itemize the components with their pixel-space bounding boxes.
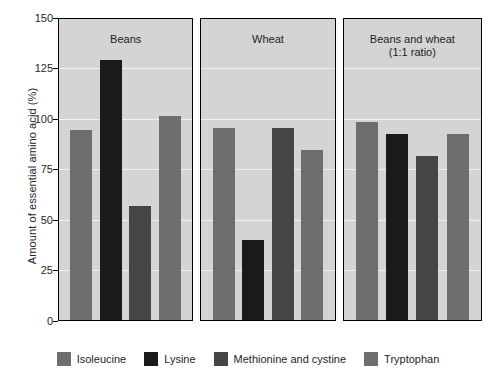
bar [416,156,438,320]
legend-label: Isoleucine [77,353,127,365]
legend-swatch [144,352,158,366]
chart-root: Amount of essential amino acid (%) 02550… [0,0,496,392]
bar [301,150,323,320]
bar [159,116,181,320]
chart-legend: IsoleucineLysineMethionine and cystineTr… [0,352,496,366]
legend-swatch [364,352,378,366]
bar [129,206,151,320]
legend-item: Isoleucine [57,352,127,366]
legend-swatch [214,352,228,366]
bar-group [201,19,334,320]
bar [447,134,469,320]
bar-group [344,19,481,320]
panel-group: BeansWheatBeans and wheat (1:1 ratio) [58,18,482,321]
bar-group [59,19,192,320]
legend-item: Tryptophan [364,352,439,366]
legend-label: Tryptophan [384,353,439,365]
legend-swatch [57,352,71,366]
panel-title: Beans and wheat (1:1 ratio) [344,33,481,59]
bar [272,128,294,320]
bar [356,122,378,320]
bar [386,134,408,320]
bar [213,128,235,320]
chart-panel: Wheat [200,18,335,321]
chart-panel: Beans and wheat (1:1 ratio) [343,18,482,321]
y-axis: 0255075100125150 [20,18,58,320]
panel-title: Wheat [201,33,334,46]
legend-label: Methionine and cystine [234,353,347,365]
legend-item: Lysine [144,352,195,366]
legend-item: Methionine and cystine [214,352,347,366]
legend-label: Lysine [164,353,195,365]
bar [242,240,264,320]
chart-panel: Beans [58,18,193,321]
panel-title: Beans [59,33,192,46]
bar [100,60,122,320]
bar [70,130,92,320]
